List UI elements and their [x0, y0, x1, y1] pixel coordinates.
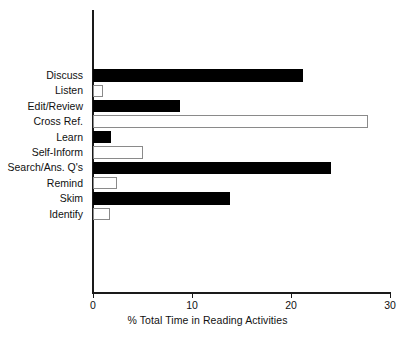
x-tick-label: 20	[285, 299, 297, 311]
category-label: Self-Inform	[0, 145, 88, 160]
bar-row	[93, 207, 390, 222]
bar-edit-review	[93, 100, 180, 112]
category-label: Listen	[0, 83, 88, 98]
bar-row	[93, 130, 390, 145]
bar-row	[93, 191, 390, 206]
category-label: Discuss	[0, 68, 88, 83]
x-tick-label: 0	[90, 299, 96, 311]
category-label: Skim	[0, 191, 88, 206]
category-label: Search/Ans. Q's	[0, 160, 88, 175]
bar-row	[93, 176, 390, 191]
category-axis-labels: DiscussListenEdit/ReviewCross Ref.LearnS…	[0, 68, 88, 222]
bar-search-ans-q-s	[93, 162, 331, 174]
bar-row	[93, 145, 390, 160]
x-tick-mark	[390, 293, 391, 298]
x-axis-line	[92, 292, 391, 294]
bar-cross-ref	[93, 115, 368, 127]
category-label: Remind	[0, 176, 88, 191]
bar-discuss	[93, 69, 303, 81]
bar-row	[93, 160, 390, 175]
bar-row	[93, 99, 390, 114]
x-tick-mark	[192, 293, 193, 298]
category-label: Learn	[0, 130, 88, 145]
bars-container	[93, 68, 390, 222]
bar-row	[93, 83, 390, 98]
bar-row	[93, 68, 390, 83]
x-tick-mark	[291, 293, 292, 298]
x-tick-mark	[93, 293, 94, 298]
bar-learn	[93, 131, 111, 143]
x-tick-label: 30	[384, 299, 396, 311]
bar-chart: DiscussListenEdit/ReviewCross Ref.LearnS…	[0, 0, 415, 337]
bar-row	[93, 114, 390, 129]
x-axis-title: % Total Time in Reading Activities	[0, 314, 415, 326]
bar-identify	[93, 208, 110, 220]
bar-remind	[93, 177, 117, 189]
x-tick-label: 10	[186, 299, 198, 311]
category-label: Edit/Review	[0, 99, 88, 114]
bar-self-inform	[93, 146, 143, 158]
bar-listen	[93, 85, 103, 97]
category-label: Cross Ref.	[0, 114, 88, 129]
bar-skim	[93, 192, 230, 204]
category-label: Identify	[0, 207, 88, 222]
